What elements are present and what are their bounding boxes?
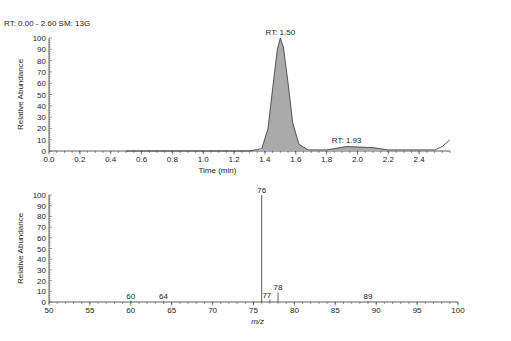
y-tick-label: 30 <box>37 266 46 275</box>
x-tick-label: 1.2 <box>229 155 241 164</box>
y-axis-label: Relative Abundance <box>16 212 25 284</box>
x-tick-label: 0.6 <box>136 155 148 164</box>
peak-label: 78 <box>274 283 283 292</box>
y-axis-label: Relative Abundance <box>16 58 25 130</box>
y-tick-label: 50 <box>37 245 46 254</box>
peak-label: 60 <box>126 292 135 301</box>
y-tick-label: 10 <box>37 136 46 145</box>
x-tick-label: 0.2 <box>74 155 86 164</box>
peak-label: RT: 1.50 <box>266 28 296 37</box>
x-tick-label: 2.4 <box>414 155 426 164</box>
peak-fill <box>262 38 308 151</box>
x-tick-label: 90 <box>372 306 381 315</box>
y-tick-label: 90 <box>37 45 46 54</box>
x-tick-label: 70 <box>208 306 217 315</box>
x-tick-label: 0.4 <box>105 155 117 164</box>
y-tick-label: 40 <box>37 255 46 264</box>
x-tick-label: 85 <box>331 306 340 315</box>
x-tick-label: 0.0 <box>43 155 55 164</box>
x-tick-label: 2.0 <box>352 155 364 164</box>
y-tick-label: 70 <box>37 223 46 232</box>
y-tick-label: 10 <box>37 287 46 296</box>
x-tick-label: 1.0 <box>198 155 210 164</box>
peak-label: 64 <box>159 292 168 301</box>
x-tick-label: 0.8 <box>167 155 179 164</box>
peak-label: 76 <box>257 186 266 195</box>
y-tick-label: 60 <box>37 79 46 88</box>
y-tick-label: 20 <box>37 124 46 133</box>
y-tick-label: 80 <box>37 212 46 221</box>
peak-label: 89 <box>364 292 373 301</box>
y-tick-label: 100 <box>33 34 47 43</box>
x-tick-label: 95 <box>413 306 422 315</box>
x-axis-label: m/z <box>251 317 264 326</box>
x-tick-label: 80 <box>290 306 299 315</box>
y-tick-label: 80 <box>37 57 46 66</box>
x-tick-label: 2.2 <box>383 155 395 164</box>
x-tick-label: 60 <box>126 306 135 315</box>
x-tick-label: 75 <box>249 306 258 315</box>
x-tick-label: 1.8 <box>321 155 333 164</box>
x-axis-label: Time (min) <box>198 166 236 175</box>
y-tick-label: 90 <box>37 202 46 211</box>
y-tick-label: 30 <box>37 113 46 122</box>
x-tick-label: 50 <box>45 306 54 315</box>
y-tick-label: 60 <box>37 234 46 243</box>
peak-label: 77 <box>262 291 271 300</box>
y-tick-label: 20 <box>37 277 46 286</box>
x-tick-label: 1.4 <box>259 155 271 164</box>
y-tick-label: 70 <box>37 68 46 77</box>
chromatogram-and-spectrum: 01020304050607080901000.00.20.40.60.81.0… <box>0 0 511 341</box>
y-tick-label: 100 <box>33 191 47 200</box>
x-tick-label: 1.6 <box>290 155 302 164</box>
x-tick-label: 100 <box>451 306 465 315</box>
peak-label: RT: 1.93 <box>332 136 362 145</box>
y-tick-label: 40 <box>37 102 46 111</box>
x-tick-label: 65 <box>167 306 176 315</box>
x-tick-label: 55 <box>85 306 94 315</box>
y-tick-label: 50 <box>37 91 46 100</box>
